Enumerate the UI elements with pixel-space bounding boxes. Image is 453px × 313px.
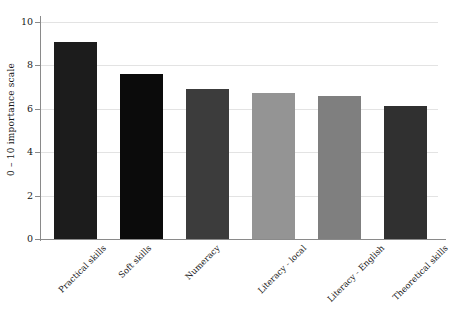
x-tick-label: Practical skills: [57, 243, 109, 295]
x-tick-label: Literacy - English: [325, 243, 386, 304]
y-tick-label: 8: [10, 60, 33, 70]
y-tick-label: 10: [10, 17, 33, 27]
bar[interactable]: [54, 42, 97, 239]
x-axis-line: [41, 239, 446, 240]
bar[interactable]: [120, 74, 163, 239]
bar[interactable]: [186, 89, 229, 239]
plot-area: [41, 22, 438, 239]
y-tick-label: 4: [10, 147, 33, 157]
gridline: [41, 109, 438, 110]
gridline: [41, 65, 438, 66]
y-tick-label: 2: [10, 191, 33, 201]
y-tick-label: 0: [10, 234, 33, 244]
bar[interactable]: [318, 96, 361, 239]
x-tick-label: Theoretical skills: [391, 243, 450, 302]
bar-chart: 0 – 10 importance scale 0246810 Practica…: [0, 0, 453, 313]
y-tick-label: 6: [10, 104, 33, 114]
x-tick-label: Soft skills: [117, 243, 154, 280]
x-tick-label: Numeracy: [183, 243, 222, 282]
bar[interactable]: [384, 106, 427, 239]
gridline: [41, 196, 438, 197]
y-axis-title: 0 – 10 importance scale: [2, 0, 20, 239]
gridline: [41, 152, 438, 153]
y-tick-mark: [35, 239, 41, 240]
bar[interactable]: [252, 93, 295, 239]
gridline: [41, 22, 438, 23]
x-tick-label: Literacy - local: [255, 243, 307, 295]
